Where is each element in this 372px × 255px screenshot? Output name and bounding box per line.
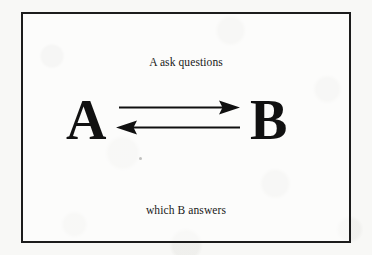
bottom-caption: which B answers	[23, 204, 349, 216]
scan-artifact-speck	[139, 157, 142, 160]
node-label-a: A	[66, 92, 106, 148]
diagram-canvas: A ask questions which B answers A B	[0, 0, 372, 255]
top-caption: A ask questions	[23, 56, 349, 68]
node-label-b: B	[250, 92, 287, 148]
